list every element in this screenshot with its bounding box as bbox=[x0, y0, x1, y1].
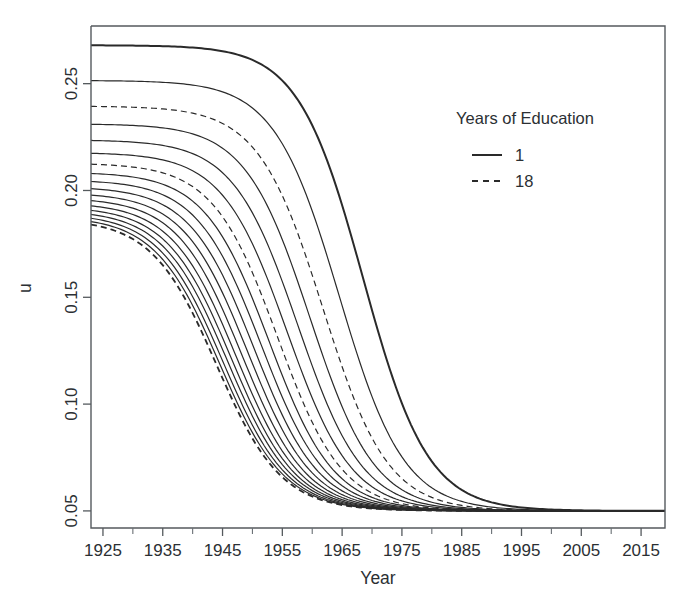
x-tick-label: 1945 bbox=[204, 541, 242, 560]
x-axis-title: Year bbox=[360, 568, 396, 588]
x-tick-label: 2005 bbox=[562, 541, 600, 560]
y-tick-label: 0.05 bbox=[62, 494, 81, 527]
x-tick-label: 1955 bbox=[263, 541, 301, 560]
legend-label-1: 1 bbox=[515, 146, 524, 164]
y-axis-title: u bbox=[15, 283, 35, 293]
y-tick-label: 0.15 bbox=[62, 281, 81, 314]
x-tick-label: 1975 bbox=[383, 541, 421, 560]
chart-background bbox=[0, 0, 699, 616]
x-tick-label: 2015 bbox=[622, 541, 660, 560]
x-tick-label: 1925 bbox=[84, 541, 122, 560]
legend-title: Years of Education bbox=[456, 109, 594, 127]
y-tick-label: 0.10 bbox=[62, 388, 81, 421]
line-chart: 1925193519451955196519751985199520052015… bbox=[0, 0, 699, 616]
figure-container: 1925193519451955196519751985199520052015… bbox=[0, 0, 699, 616]
x-tick-label: 1995 bbox=[503, 541, 541, 560]
x-tick-label: 1985 bbox=[443, 541, 481, 560]
y-tick-label: 0.25 bbox=[62, 67, 81, 100]
x-tick-label: 1935 bbox=[144, 541, 182, 560]
y-tick-label: 0.20 bbox=[62, 174, 81, 207]
legend-label-18: 18 bbox=[515, 172, 533, 190]
x-tick-label: 1965 bbox=[323, 541, 361, 560]
